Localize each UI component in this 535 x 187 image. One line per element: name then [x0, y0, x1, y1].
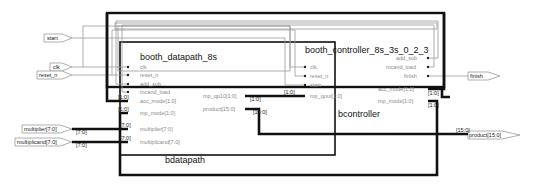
output-port-product[interactable]: product[15:0] — [468, 131, 520, 139]
dp-port-mp-qp10: mp_qp10[1:0] — [203, 93, 237, 99]
ctrl-port-mp-qout: mp_qout[1:0] — [310, 93, 343, 99]
bus-label-multiplicand-in: [7:0] — [120, 135, 131, 141]
output-port-product-label: product[15:0] — [469, 132, 502, 138]
output-port-finish[interactable]: finish — [468, 72, 500, 80]
input-port-reset-n[interactable]: reset_n — [37, 71, 72, 79]
bus-label-mp-qp10: [1:0] — [250, 96, 261, 102]
ctrl-port-mp-mode: mp_mode[1:0] — [378, 98, 414, 104]
schematic-canvas: start clk reset_n multiplier[7:0] multip… — [0, 0, 535, 187]
input-port-clk[interactable]: clk — [50, 63, 72, 71]
dp-port-multiplier: multiplier[7:0] — [140, 126, 173, 132]
ctrl-port-finish: finish — [404, 73, 417, 79]
input-port-multiplier[interactable]: multiplier[7:0] — [22, 125, 72, 133]
dp-port-mp-mode: mp_mode[1:0] — [140, 110, 176, 116]
bus-label-multiplicand-src: [7:0] — [76, 142, 87, 148]
dp-port-product: product[15:0] — [203, 106, 236, 112]
ctrl-port-mcand-load: mcand_load — [386, 64, 416, 70]
input-port-multiplicand[interactable]: multiplicand[7:0] — [15, 138, 72, 146]
dp-port-acc-mode: acc_mode[1:0] — [140, 98, 177, 104]
ctrl-port-start: start — [310, 82, 321, 88]
bus-label-ctrl-mp-mode: [1:0] — [428, 102, 439, 108]
bus-label-product-src: [15:0] — [253, 109, 267, 115]
bus-label-acc-mode: [1:0] — [118, 94, 129, 100]
ctrl-port-clk: clk — [310, 64, 317, 70]
input-port-multiplicand-label: multiplicand[7:0] — [17, 139, 57, 145]
dp-port-mcand-load: mcand_load — [140, 89, 170, 95]
datapath-instance-name: bdatapath — [165, 155, 205, 165]
dp-port-reset-n: reset_n — [140, 72, 158, 78]
bus-label-product-out: [15:0] — [456, 127, 470, 133]
input-port-clk-label: clk — [53, 64, 60, 70]
dp-port-add-sub: add_sub — [140, 81, 161, 87]
input-port-multiplier-label: multiplier[7:0] — [24, 126, 57, 132]
bus-label-multiplier-in: [7:0] — [120, 122, 131, 128]
bus-label-mp-mode: [1:0] — [118, 106, 129, 112]
ctrl-port-acc-mode: acc_mode[1:0] — [378, 86, 415, 92]
bus-label-multiplier-src: [7:0] — [76, 129, 87, 135]
controller-instance-name: bcontroller — [338, 109, 380, 119]
input-port-start[interactable]: start — [44, 34, 72, 42]
ctrl-port-add-sub: add_sub — [396, 55, 417, 61]
bus-label-mp-qout: [1:0] — [284, 89, 295, 95]
dp-port-clk: clk — [140, 64, 147, 70]
input-port-reset-n-label: reset_n — [39, 72, 57, 78]
bus-acc-mode-ctrl — [428, 13, 444, 89]
input-port-start-label: start — [47, 35, 58, 41]
datapath-module-name: booth_datapath_8s — [140, 52, 218, 62]
dp-port-multiplicand: multiplicand[7:0] — [140, 139, 180, 145]
output-port-finish-label: finish — [470, 73, 483, 79]
bus-label-ctrl-acc-mode: [1:0] — [428, 90, 439, 96]
ctrl-port-reset-n: reset_n — [310, 73, 328, 79]
controller-module-name: booth_controller_8s_3s_0_2_3 — [305, 45, 429, 55]
